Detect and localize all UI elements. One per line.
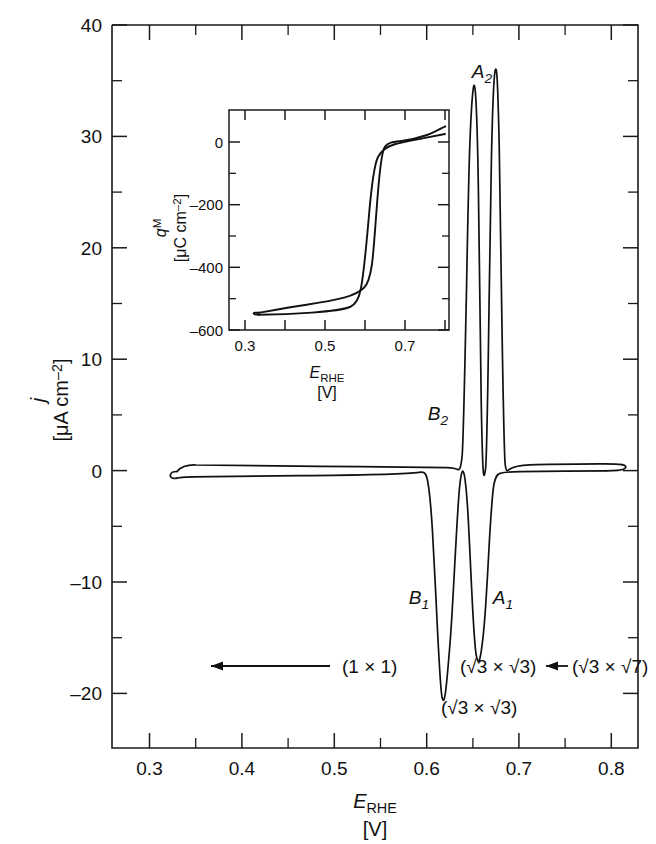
y-axis-units-exponent: –2: [49, 364, 65, 380]
peak-label-B2-letter: B: [428, 403, 441, 424]
peak-label-B2: B2: [428, 403, 449, 428]
y-ticklabel-10: 10: [81, 349, 102, 370]
inset-x-ticklabels: 0.3 0.5 0.7: [235, 337, 416, 354]
y-ticklabel-neg10: –10: [70, 572, 102, 593]
inset-x-axis-symbol-group: ERHE: [310, 364, 345, 384]
peak-label-A1: A1: [492, 587, 513, 612]
anodic-sweep-turnaround: [606, 465, 626, 471]
sweep-left-turnaround: [170, 471, 177, 478]
figure-canvas: 40 30 20 10 0 –10 –20 0.3 0.4 0.5: [0, 0, 656, 844]
inset-x-ticklabel-0.5: 0.5: [315, 337, 336, 354]
x-ticklabel-0.3: 0.3: [136, 758, 162, 779]
peak-label-B1-subscript: 1: [422, 597, 430, 612]
y-axis-symbol: j: [27, 397, 49, 405]
x-axis-units: [V]: [363, 818, 387, 840]
inset-y-ticklabel-0: 0: [215, 134, 223, 151]
phase-label-r3r3-middle: (√3 × √3): [460, 656, 536, 677]
inset-y-ticklabel-n600: –600: [190, 322, 223, 339]
peak-label-A1-letter: A: [492, 587, 506, 608]
arrow-left-short-icon: [546, 662, 568, 671]
inset-y-axis-symbol: q: [152, 228, 169, 237]
main-y-ticklabels: 40 30 20 10 0 –10 –20: [70, 15, 102, 704]
peak-label-A1-subscript: 1: [506, 597, 514, 612]
x-ticklabel-0.5: 0.5: [321, 758, 347, 779]
phase-label-1x1: (1 × 1): [342, 656, 397, 677]
inset-x-axis-symbol: E: [310, 364, 321, 381]
inset-y-ticklabel-n200: –200: [190, 196, 223, 213]
phase-label-r3r3-below: (√3 × √3): [441, 697, 517, 718]
inset-x-axis-units: [V]: [317, 384, 337, 401]
phase-transition-annotations: (1 × 1) (√3 × √3) (√3 × √7) (√3 × √3): [211, 656, 648, 718]
y-ticklabel-neg20: –20: [70, 683, 102, 704]
inset-y-axis-units-bracket: ]: [172, 194, 189, 198]
inset-y-axis-title: qM [μC cm–2]: [151, 194, 189, 262]
main-x-ticklabels: 0.3 0.4 0.5 0.6 0.7 0.8: [136, 758, 624, 779]
peak-label-A2-letter: A: [471, 61, 485, 82]
y-ticklabel-30: 30: [81, 126, 102, 147]
x-axis-symbol: E: [353, 790, 367, 812]
x-ticklabel-0.4: 0.4: [229, 758, 256, 779]
x-axis-symbol-group: ERHE: [353, 790, 397, 816]
inset-y-axis-units-exponent: –2: [171, 198, 183, 211]
arrow-left-long-icon: [211, 662, 330, 671]
phase-label-r3r7: (√3 × √7): [572, 656, 648, 677]
peak-label-A2: A2: [471, 61, 493, 86]
inset-x-axis-subscript: RHE: [320, 372, 345, 384]
y-ticklabel-40: 40: [81, 15, 102, 36]
inset-x-ticklabel-0.3: 0.3: [235, 337, 256, 354]
peak-label-B1-letter: B: [409, 587, 422, 608]
inset-x-axis-title: ERHE [V]: [310, 364, 345, 401]
x-ticklabel-0.6: 0.6: [413, 758, 439, 779]
inset-y-axis-superscript: M: [151, 219, 163, 229]
inset-y-ticklabels: 0 –200 –400 –600: [190, 134, 223, 339]
y-axis-units: [μA cm–2]: [49, 358, 72, 441]
main-x-axis-title: ERHE [V]: [353, 790, 397, 840]
main-y-axis-title: j [μA cm–2]: [27, 358, 72, 441]
inset-y-ticklabel-n400: –400: [190, 259, 223, 276]
inset-y-axis-units-text: [μC cm: [172, 211, 189, 262]
y-ticklabel-0: 0: [91, 461, 102, 482]
y-axis-units-text: [μA cm: [50, 380, 72, 442]
inset-plot: 0 –200 –400 –600 0.3 0.5 0.7 q: [151, 110, 449, 401]
x-ticklabel-0.8: 0.8: [598, 758, 624, 779]
inset-y-axis-symbol-group: qM: [151, 219, 169, 238]
inset-y-axis-units: [μC cm–2]: [171, 194, 189, 262]
x-axis-subscript: RHE: [366, 800, 396, 816]
figure-cyclic-voltammogram: 40 30 20 10 0 –10 –20 0.3 0.4 0.5: [0, 0, 656, 844]
peak-label-A2-subscript: 2: [484, 71, 493, 86]
inset-frame-rect: [229, 110, 449, 330]
peak-label-B1: B1: [409, 587, 429, 612]
peak-label-B2-subscript: 2: [440, 413, 449, 428]
y-axis-units-bracket: ]: [50, 358, 72, 364]
y-ticklabel-20: 20: [81, 238, 102, 259]
x-ticklabel-0.7: 0.7: [506, 758, 532, 779]
inset-x-ticklabel-0.7: 0.7: [395, 337, 416, 354]
